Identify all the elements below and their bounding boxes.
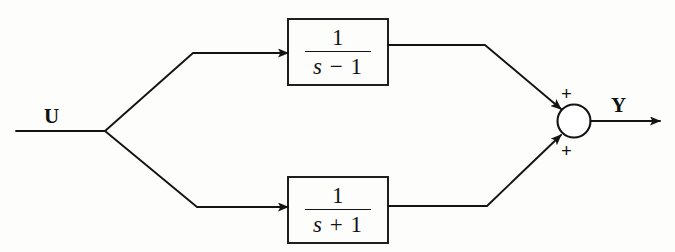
diagram-wiring (0, 0, 675, 252)
summing-junction-circle (558, 105, 591, 138)
upper-branch-line (105, 53, 288, 131)
top-block-output-line (388, 45, 561, 109)
summing-junction-bottom-sign: + (561, 141, 572, 160)
bottom-block-output-line (388, 135, 561, 206)
lower-branch-line (105, 131, 288, 207)
input-label: U (44, 104, 59, 129)
summing-junction-top-sign: + (561, 84, 572, 103)
top-block-rect (288, 19, 388, 85)
output-label: Y (611, 93, 626, 118)
block-diagram-canvas: 1 s − 1 1 s + 1 U Y + + (0, 0, 675, 252)
bottom-block-rect (288, 177, 388, 243)
